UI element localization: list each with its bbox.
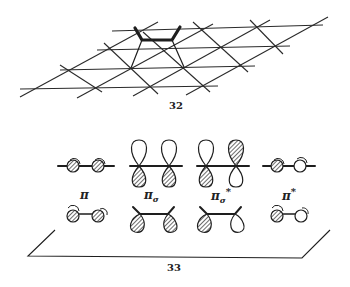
orbital-pi-star-bottom — [271, 205, 308, 222]
orbital-pi-sigma-star-bottom — [197, 207, 244, 232]
label-pi-sigma-star: πσ* — [211, 186, 231, 205]
figure-number-32: 32 — [169, 100, 183, 111]
label-pi-star-sup: * — [291, 186, 296, 197]
orbital-pi-sigma-bottom — [130, 207, 177, 232]
label-pi: π — [80, 188, 89, 202]
label-pi-sigma: πσ — [144, 188, 159, 204]
orbital-pi-bottom — [67, 205, 107, 222]
label-pi-sigma-symbol: π — [144, 188, 153, 202]
figure-number-33: 33 — [167, 262, 181, 273]
label-pi-star: π* — [282, 186, 296, 203]
label-pi-sigma-sub: σ — [153, 194, 159, 204]
label-pi-star-symbol: π — [282, 189, 291, 203]
orbital-pi-star-top — [263, 157, 315, 172]
surface-lattice — [20, 17, 328, 98]
surface-plane — [28, 230, 330, 258]
label-pi-sigma-star-sup: * — [226, 186, 231, 197]
diagram-canvas — [0, 0, 350, 287]
label-pi-symbol: π — [80, 188, 89, 202]
label-pi-sigma-star-symbol: π — [211, 189, 220, 203]
orbital-pi-sigma-star-top — [197, 140, 249, 187]
orbital-pi-sigma-top — [130, 140, 182, 187]
orbital-pi-top — [58, 158, 114, 172]
